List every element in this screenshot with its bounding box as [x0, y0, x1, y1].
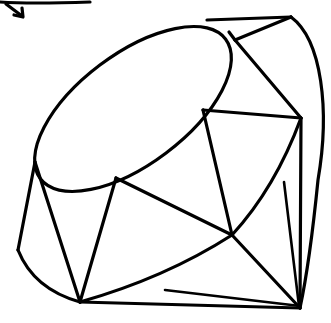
arrow-icon	[0, 2, 90, 17]
gem-drawing	[0, 0, 331, 323]
